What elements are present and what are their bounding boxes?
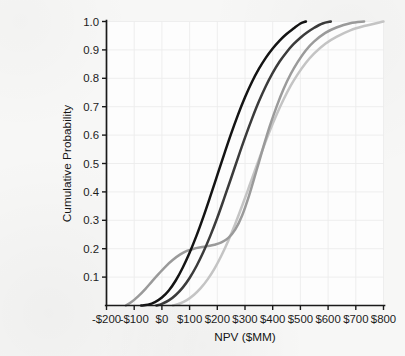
x-tick-label: $200 [205,313,230,325]
y-tick-label: 0.2 [83,243,99,255]
y-tick-label: 0.3 [83,214,99,226]
x-tick-label: $300 [232,313,257,325]
y-tick-label: 0.9 [83,44,99,56]
x-tick-label: -$100 [120,313,149,325]
x-tick-label: $700 [343,313,368,325]
x-tick-label: $800 [371,313,396,325]
y-tick-label: 1.0 [83,16,99,28]
x-tick-label: $600 [315,313,340,325]
chart-figure: 0.10.20.30.40.50.60.70.80.91.0 -$200-$10… [0,0,405,356]
y-tick-label: 0.5 [83,158,99,170]
page-background: 0.10.20.30.40.50.60.70.80.91.0 -$200-$10… [0,0,405,356]
x-axis-title: NPV ($MM) [214,330,276,344]
x-axis-tick-labels: -$200-$100$0$100$200$300$400$500$600$700… [92,313,396,325]
y-tick-label: 0.1 [83,271,99,283]
y-tick-label: 0.7 [83,101,99,113]
y-axis-title: Cumulative Probability [60,105,74,222]
x-tick-label: $100 [177,313,202,325]
x-tick-label: $400 [260,313,285,325]
x-tick-label: $500 [288,313,313,325]
y-tick-label: 0.8 [83,72,99,84]
y-axis-tick-labels: 0.10.20.30.40.50.60.70.80.91.0 [83,16,99,284]
y-tick-label: 0.6 [83,129,99,141]
x-tick-label: -$200 [92,313,121,325]
y-tick-label: 0.4 [83,186,99,198]
x-tick-label: $0 [156,313,169,325]
npv-cumulative-probability-chart: 0.10.20.30.40.50.60.70.80.91.0 -$200-$10… [0,0,405,356]
